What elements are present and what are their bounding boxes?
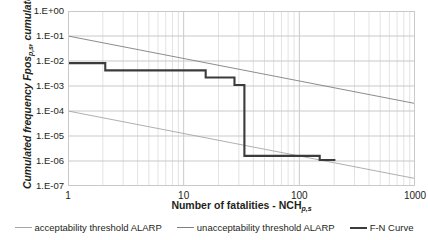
x-axis-title: Number of fatalities - NCHp,s (68, 199, 415, 212)
minor-gridlines (103, 11, 410, 186)
legend-item[interactable]: F-N Curve (350, 222, 414, 233)
chart-canvas (68, 11, 415, 186)
chart-figure: Cumulated frequency Fposp,s, cumulated 1… (0, 0, 428, 240)
series-line (68, 111, 415, 178)
legend-item[interactable]: unacceptability threshold ALARP (177, 222, 335, 233)
legend-item[interactable]: acceptability threshold ALARP (15, 222, 162, 233)
legend-label: F-N Curve (370, 222, 414, 233)
major-gridlines (68, 11, 415, 186)
data-series-layer (68, 36, 415, 178)
plot-border (69, 12, 415, 186)
chart-legend: acceptability threshold ALARPunacceptabi… (0, 222, 428, 233)
legend-swatch-icon (350, 227, 367, 229)
legend-swatch-icon (15, 227, 32, 228)
legend-swatch-icon (177, 227, 194, 228)
x-axis-title-subscript: p,s (301, 205, 311, 212)
x-axis-title-text: Number of fatalities - NCH (171, 199, 301, 211)
plot-area (68, 11, 415, 186)
series-line (68, 63, 335, 160)
legend-label: acceptability threshold ALARP (35, 222, 162, 233)
legend-label: unacceptability threshold ALARP (197, 222, 335, 233)
